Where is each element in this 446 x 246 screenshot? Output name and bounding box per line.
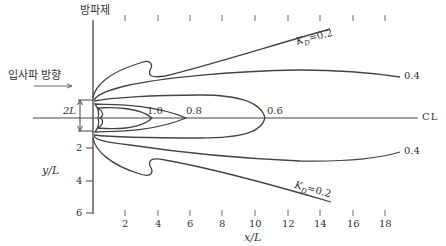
label-0-6: 0.6 (267, 106, 283, 116)
x-tick-label-8: 8 (219, 219, 225, 229)
bottom-ticks (125, 210, 385, 216)
y-axis-label: y/L (42, 165, 59, 176)
centerline-label: CL (422, 112, 438, 122)
x-tick-label-14: 14 (314, 219, 327, 229)
bracket-2l-label: 2L (63, 106, 76, 116)
x-tick-label-18: 18 (379, 219, 392, 229)
label-0-4-top: 0.4 (404, 71, 420, 81)
label-0-4-bottom: 0.4 (404, 146, 420, 156)
y-tick-label-4: 4 (76, 176, 82, 186)
diffraction-diagram (0, 0, 446, 246)
x-tick-label-12: 12 (282, 219, 295, 229)
x-tick-label-10: 10 (249, 219, 262, 229)
label-0-8: 0.8 (186, 106, 202, 116)
incident-direction-label: 입사파 방향 (8, 70, 62, 81)
x-tick-label-6: 6 (187, 219, 193, 229)
breakwater-label: 방파제 (80, 5, 110, 16)
contour-0-2-top (93, 29, 330, 98)
x-axis-label: x/L (244, 232, 261, 243)
contour-0-4-bottom (94, 136, 400, 161)
top-ticks (125, 15, 385, 21)
x-tick-label-4: 4 (155, 219, 161, 229)
label-1-0: 1.0 (147, 106, 163, 116)
x-tick-label-16: 16 (347, 219, 360, 229)
x-tick-label-2: 2 (122, 219, 128, 229)
y-tick-label-6: 6 (76, 208, 82, 218)
contour-0-4-top (94, 70, 400, 100)
y-tick-label-2: 2 (76, 143, 82, 153)
